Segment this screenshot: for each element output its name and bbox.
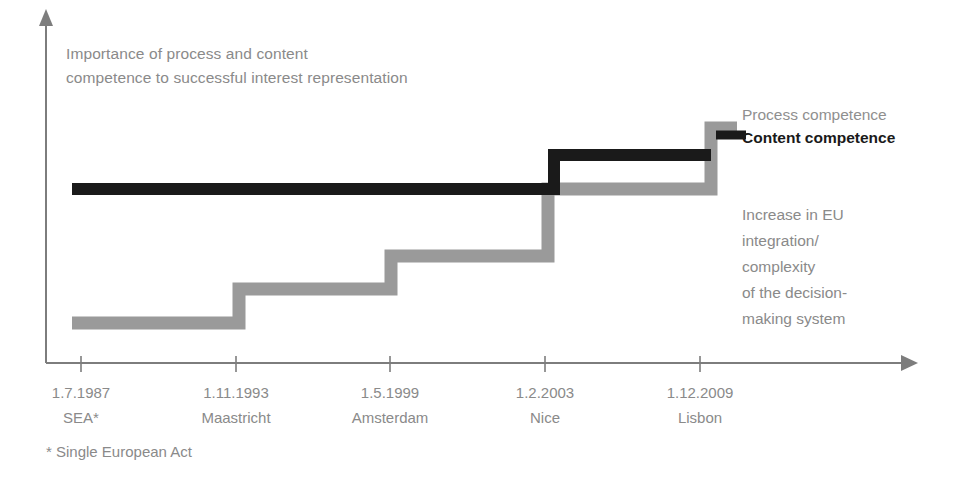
x-tick-date-lisbon: 1.12.2009 <box>620 380 780 405</box>
chart-container: Importance of process and content compet… <box>0 0 953 479</box>
x-tick-label-amsterdam: 1.5.1999 Amsterdam <box>310 380 470 430</box>
x-tick-name-nice: Nice <box>465 405 625 430</box>
x-tick-label-lisbon: 1.12.2009 Lisbon <box>620 380 780 430</box>
x-tick-date-amsterdam: 1.5.1999 <box>310 380 470 405</box>
x-tick-name-lisbon: Lisbon <box>620 405 780 430</box>
footnote: * Single European Act <box>46 443 192 460</box>
x-tick-label-maastricht: 1.11.1993 Maastricht <box>156 380 316 430</box>
x-tick-date-sea: 1.7.1987 <box>1 380 161 405</box>
x-tick-date-maastricht: 1.11.1993 <box>156 380 316 405</box>
x-tick-date-nice: 1.2.2003 <box>465 380 625 405</box>
x-tick-name-amsterdam: Amsterdam <box>310 405 470 430</box>
x-tick-name-sea: SEA* <box>1 405 161 430</box>
x-axis-tick-labels: 1.7.1987 SEA* 1.11.1993 Maastricht 1.5.1… <box>0 0 953 479</box>
x-tick-name-maastricht: Maastricht <box>156 405 316 430</box>
x-tick-label-nice: 1.2.2003 Nice <box>465 380 625 430</box>
x-tick-label-sea: 1.7.1987 SEA* <box>1 380 161 430</box>
